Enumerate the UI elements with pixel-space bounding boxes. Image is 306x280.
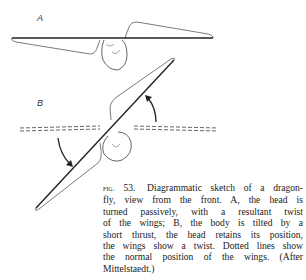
caption-line: turned passively, with a resultant twist [103, 206, 303, 217]
panel-label-b: B [37, 98, 43, 108]
caption-line: the normal position of the wings. (After [103, 251, 303, 262]
figure-number: 53. [123, 182, 135, 193]
panel-label-a: A [37, 13, 43, 23]
dragonfly-figure: A B fig. 53. Diagrammatic sketch of a dr… [0, 0, 306, 280]
figure-caption: fig. 53. Diagrammatic sketch of a dragon… [103, 182, 303, 274]
panel-a-drawing [12, 22, 214, 70]
caption-line: Diagrammatic sketch of a dragon- [147, 182, 303, 193]
caption-line: of the wings; B, the body is tilted by a [103, 217, 303, 228]
caption-line: Mittelstaedt.) [103, 263, 303, 274]
caption-line: short thrust, the head retains its posit… [103, 229, 303, 240]
caption-line: the wings show a twist. Dotted lines sho… [103, 240, 303, 251]
figure-label: fig. [103, 183, 115, 193]
caption-line: fly, view from the front. A, the head is [103, 194, 303, 205]
